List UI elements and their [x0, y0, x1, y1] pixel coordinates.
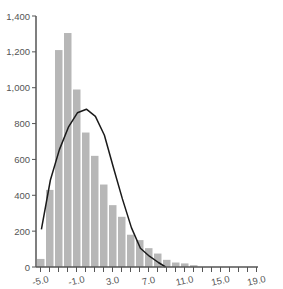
histogram-bar	[64, 33, 72, 267]
x-axis-ticks: -5.0-1.03.07.011.015.019.0	[31, 267, 266, 288]
y-tick-label: 1,400	[6, 11, 30, 22]
x-tick-label: 3.0	[105, 274, 120, 288]
y-tick-label: 0	[25, 262, 30, 273]
histogram-bar	[100, 185, 108, 267]
y-tick-label: 400	[14, 190, 30, 201]
y-tick-label: 1,000	[6, 82, 30, 93]
histogram-bar	[37, 259, 45, 267]
y-tick-label: 800	[14, 118, 30, 129]
histogram-bar	[136, 240, 144, 267]
histogram-bar	[127, 235, 135, 267]
x-tick-label: -1.0	[67, 273, 85, 287]
y-tick-label: 600	[14, 154, 30, 165]
x-tick-label: 19.0	[246, 273, 266, 288]
x-tick-label: 7.0	[141, 274, 156, 288]
histogram-chart: 02004006008001,0001,2001,400 -5.0-1.03.0…	[0, 0, 283, 289]
y-tick-label: 1,200	[6, 46, 30, 57]
x-tick-label: -5.0	[31, 273, 49, 287]
y-axis-ticks: 02004006008001,0001,2001,400	[6, 11, 36, 273]
histogram-bar	[118, 217, 126, 267]
x-tick-label: 15.0	[210, 273, 230, 288]
histogram-bar	[91, 156, 99, 267]
x-tick-label: 11.0	[175, 273, 195, 287]
histogram-bar	[109, 205, 117, 267]
histogram-bar	[73, 90, 81, 267]
histogram-bars	[37, 33, 198, 267]
histogram-bar	[82, 133, 90, 267]
y-tick-label: 200	[14, 226, 30, 237]
